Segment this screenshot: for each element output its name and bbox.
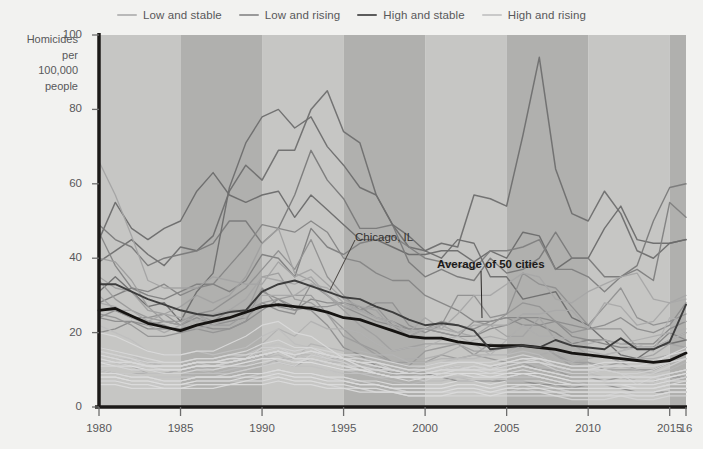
x-tick-label: 2010 bbox=[575, 422, 601, 434]
x-tick-label: 1990 bbox=[249, 422, 275, 434]
x-tick-label: 16 bbox=[680, 422, 693, 434]
legend-swatch-icon bbox=[482, 14, 502, 16]
chart-root: Low and stableLow and risingHigh and sta… bbox=[0, 0, 703, 449]
y-tick-label: 80 bbox=[46, 102, 82, 114]
y-tick-label: 60 bbox=[46, 177, 82, 189]
x-tick-label: 2000 bbox=[412, 422, 438, 434]
legend-label: Low and stable bbox=[143, 9, 222, 21]
legend-item-0[interactable]: Low and stable bbox=[117, 9, 222, 21]
x-tick-label: 1980 bbox=[86, 422, 112, 434]
plot-band-6 bbox=[588, 35, 670, 407]
legend-label: Low and rising bbox=[265, 9, 341, 21]
y-tick-label: 20 bbox=[46, 326, 82, 338]
y-axis-ticks: 020406080100 bbox=[46, 0, 82, 449]
legend-label: High and stable bbox=[383, 9, 464, 21]
annotation-average: Average of 50 cities bbox=[437, 258, 545, 270]
legend-item-2[interactable]: High and stable bbox=[357, 9, 464, 21]
x-tick-label: 1985 bbox=[168, 422, 194, 434]
annotation-chicago: Chicago, IL bbox=[355, 231, 413, 243]
chart-legend: Low and stableLow and risingHigh and sta… bbox=[0, 9, 703, 21]
y-tick-label: 0 bbox=[46, 400, 82, 412]
y-tick-label: 100 bbox=[46, 28, 82, 40]
legend-item-3[interactable]: High and rising bbox=[482, 9, 586, 21]
x-tick-label: 1995 bbox=[331, 422, 357, 434]
x-tick-label: 2005 bbox=[494, 422, 520, 434]
legend-swatch-icon bbox=[357, 14, 377, 16]
plot-band-1 bbox=[181, 35, 263, 407]
legend-swatch-icon bbox=[117, 14, 137, 16]
legend-swatch-icon bbox=[239, 14, 259, 16]
legend-label: High and rising bbox=[508, 9, 586, 21]
chart-plot-area bbox=[0, 0, 703, 449]
plot-band-0 bbox=[99, 35, 181, 407]
x-axis-ticks: 1980198519901995200020052010201516 bbox=[0, 422, 703, 440]
y-tick-label: 40 bbox=[46, 251, 82, 263]
legend-item-1[interactable]: Low and rising bbox=[239, 9, 341, 21]
